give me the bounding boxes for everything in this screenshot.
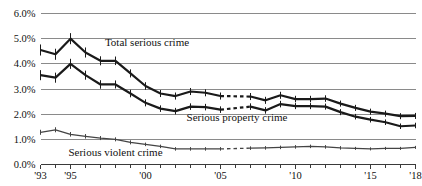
x-tick-label: '95 — [64, 170, 76, 181]
x-tick-label: '05 — [214, 170, 226, 181]
gridlines-group — [41, 14, 416, 165]
y-tick-labels-group: 0.0%1.0%2.0%3.0%4.0%5.0%6.0% — [14, 8, 36, 170]
x-tick-label: '10 — [289, 170, 301, 181]
y-tick-label: 1.0% — [14, 134, 36, 145]
series-break-segment — [221, 96, 251, 97]
x-tick-label: '18 — [409, 170, 421, 181]
total-serious-crime-label: Total serious crime — [105, 36, 189, 48]
y-tick-label: 6.0% — [14, 8, 36, 19]
x-tick-label: '93 — [34, 170, 46, 181]
y-tick-label: 0.0% — [14, 159, 36, 170]
y-tick-label: 4.0% — [14, 58, 36, 69]
y-tick-label: 2.0% — [14, 109, 36, 120]
x-axis-group — [41, 165, 416, 170]
x-tick-label: '15 — [364, 170, 376, 181]
y-tick-label: 5.0% — [14, 33, 36, 44]
crime-rate-line-chart: 0.0%1.0%2.0%3.0%4.0%5.0%6.0% '93'95'00'0… — [0, 0, 422, 186]
serious-violent-crime-label: Serious violent crime — [68, 146, 162, 158]
series-line — [251, 146, 416, 149]
series-1 — [41, 33, 416, 119]
series-break-segment — [221, 107, 251, 110]
series-break-segment — [221, 148, 251, 149]
data-series-group — [41, 33, 416, 151]
chart-canvas: 0.0%1.0%2.0%3.0%4.0%5.0%6.0% '93'95'00'0… — [0, 0, 422, 186]
serious-property-crime-label: Serious property crime — [187, 111, 288, 123]
x-tick-label: '00 — [139, 170, 151, 181]
y-tick-label: 3.0% — [14, 84, 36, 95]
x-tick-labels-group: '93'95'00'05'10'15'18 — [34, 170, 421, 181]
